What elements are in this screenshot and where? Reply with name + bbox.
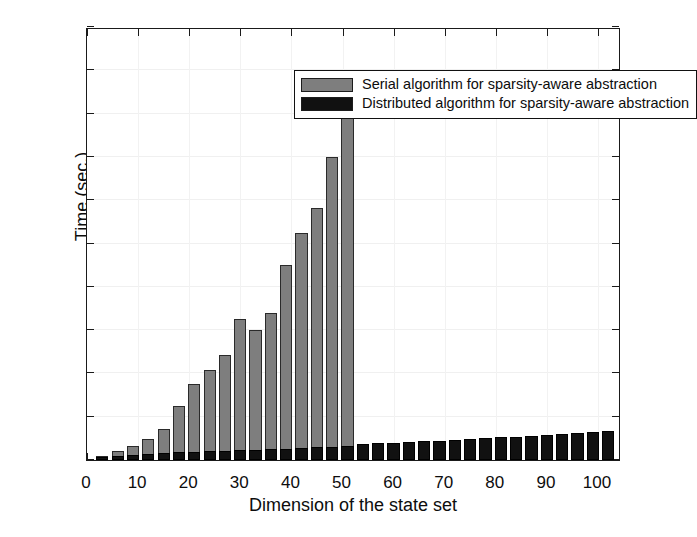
legend-label-serial: Serial algorithm for sparsity-aware abst… — [362, 77, 657, 92]
bar-distributed — [525, 436, 537, 460]
bar-distributed — [479, 438, 491, 460]
bar-distributed — [311, 447, 323, 460]
bar-distributed — [372, 443, 384, 460]
bar-serial — [204, 370, 216, 460]
bar-distributed — [418, 441, 430, 460]
bar-serial — [326, 157, 338, 460]
bar-distributed — [158, 453, 170, 460]
bar-serial — [280, 265, 292, 460]
bar-distributed — [433, 441, 445, 460]
bar-distributed — [142, 454, 154, 460]
bar-distributed — [265, 449, 277, 460]
bar-serial — [341, 113, 353, 460]
bar-distributed — [295, 448, 307, 460]
bar-distributed — [173, 452, 185, 460]
bar-distributed — [587, 432, 599, 460]
bar-distributed — [249, 450, 261, 460]
bar-distributed — [96, 457, 108, 460]
legend-label-distributed: Distributed algorithm for sparsity-aware… — [362, 96, 689, 111]
bar-distributed — [387, 443, 399, 460]
bar-distributed — [556, 434, 568, 460]
legend: Serial algorithm for sparsity-aware abst… — [294, 70, 697, 119]
bar-distributed — [234, 450, 246, 460]
bar-serial — [295, 233, 307, 460]
bar-distributed — [357, 444, 369, 460]
bar-distributed — [495, 437, 507, 460]
x-axis-title: Dimension of the state set — [86, 495, 620, 516]
bar-serial — [234, 319, 246, 460]
bar-distributed — [188, 452, 200, 460]
bar-serial — [265, 313, 277, 460]
bar-serial — [249, 330, 261, 460]
bar-distributed — [541, 435, 553, 460]
bar-distributed — [510, 437, 522, 460]
bar-serial — [311, 208, 323, 460]
bar-distributed — [602, 431, 614, 460]
x-axis-tick-label: 100 — [567, 474, 627, 491]
bar-distributed — [127, 455, 139, 460]
bar-distributed — [326, 447, 338, 460]
legend-swatch-serial-icon — [301, 78, 353, 92]
bar-distributed — [464, 439, 476, 460]
bar-distributed — [449, 440, 461, 460]
bar-distributed — [341, 446, 353, 460]
bar-distributed — [219, 451, 231, 460]
bar-serial — [219, 355, 231, 460]
bar-distributed — [571, 433, 583, 460]
bar-distributed — [204, 451, 216, 460]
bar-distributed — [280, 449, 292, 460]
legend-item-distributed: Distributed algorithm for sparsity-aware… — [301, 94, 689, 113]
bar-distributed — [403, 442, 415, 460]
bar-distributed — [112, 456, 124, 460]
legend-item-serial: Serial algorithm for sparsity-aware abst… — [301, 75, 689, 94]
legend-swatch-distributed-icon — [301, 97, 353, 111]
bar-serial — [188, 384, 200, 460]
